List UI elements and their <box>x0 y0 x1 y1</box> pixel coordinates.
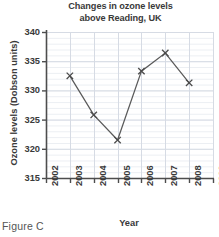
y-tick-label: 320 <box>6 144 40 154</box>
x-tick-label: 2002 <box>50 165 60 186</box>
x-tick-label: 2009 <box>217 165 219 186</box>
y-tick-label: 330 <box>6 85 40 95</box>
figure-container: Changes in ozone levels above Reading, U… <box>0 0 219 237</box>
x-tick-label: 2004 <box>98 165 108 186</box>
x-tick-label: 2008 <box>193 165 203 186</box>
y-tick-label: 315 <box>6 173 40 183</box>
x-tick-label: 2003 <box>74 165 84 186</box>
y-tick-label: 335 <box>6 56 40 66</box>
x-tick-label: 2005 <box>122 165 132 186</box>
x-axis-label: Year <box>44 218 214 228</box>
x-tick-label: 2006 <box>145 165 155 186</box>
figure-caption: Figure C <box>2 220 44 232</box>
x-tick-label: 2007 <box>169 165 179 186</box>
y-tick-label: 340 <box>6 27 40 37</box>
y-tick-label: 325 <box>6 115 40 125</box>
